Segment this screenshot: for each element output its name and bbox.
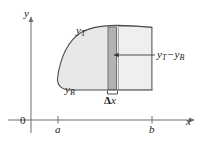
strip-shadow-column <box>119 27 152 90</box>
minus-sign: − <box>166 48 174 60</box>
strip-rect <box>108 27 117 90</box>
representative-strip <box>108 27 152 90</box>
figure-area-between-curves: y x 0 a b yT yB yT−yB Δx <box>0 0 205 144</box>
curve-label-y-top: yT <box>76 25 85 38</box>
delta-x-variable: x <box>111 94 116 106</box>
tick-label-b: b <box>149 124 155 135</box>
y-axis-label: y <box>24 8 29 19</box>
curve-label-y-top-subscript: T <box>81 29 85 38</box>
delta-x-label: Δx <box>104 95 116 106</box>
height-difference-label: yT−yB <box>157 49 184 62</box>
figure-canvas <box>0 0 205 144</box>
height-label-trail-subscript: B <box>179 53 184 62</box>
x-axis-label: x <box>186 116 191 127</box>
curve-label-y-bottom-subscript: B <box>70 88 75 97</box>
delta-symbol: Δ <box>104 94 111 106</box>
curve-label-y-bottom: yB <box>65 84 75 97</box>
origin-label: 0 <box>20 115 26 126</box>
tick-label-a: a <box>55 124 61 135</box>
